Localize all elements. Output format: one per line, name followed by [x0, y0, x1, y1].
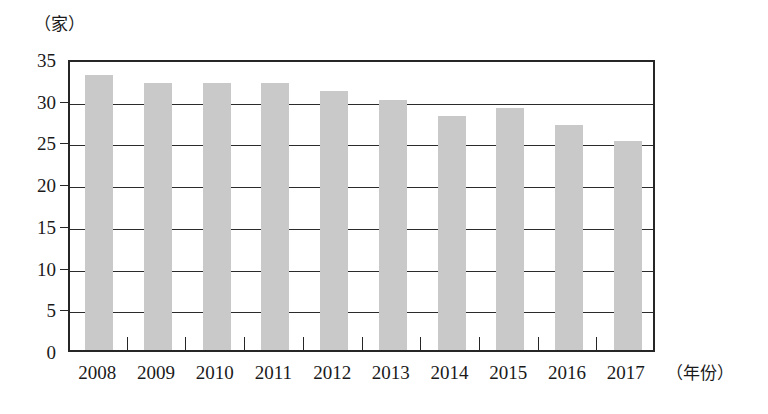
x-tick-label: 2010: [180, 362, 250, 384]
y-tick-label: 10: [10, 259, 56, 278]
bar: [144, 83, 172, 350]
y-axis-unit-label: （家）: [34, 14, 85, 36]
bar: [85, 75, 113, 350]
y-tick-label: 35: [10, 51, 56, 70]
bar-chart: （家） 05101520253035 200820092010201120122…: [0, 0, 768, 414]
bar: [438, 116, 466, 350]
bar: [614, 141, 642, 350]
bars-layer: [70, 62, 653, 350]
bar: [379, 100, 407, 350]
bar: [261, 83, 289, 350]
y-tick-label: 5: [10, 301, 56, 320]
x-tick-label: 2014: [415, 362, 485, 384]
y-tick-label: 20: [10, 176, 56, 195]
x-tick-label: 2012: [297, 362, 367, 384]
bar: [203, 83, 231, 350]
x-tick-label: 2016: [532, 362, 602, 384]
x-axis-unit-label: （年份）: [666, 363, 734, 385]
bar: [555, 125, 583, 350]
y-tick-label: 30: [10, 92, 56, 111]
y-tick-label: 15: [10, 217, 56, 236]
x-tick-label: 2011: [238, 362, 308, 384]
bar: [496, 108, 524, 350]
x-tick-label: 2008: [62, 362, 132, 384]
y-tick-label: 0: [10, 343, 56, 362]
x-tick-label: 2015: [473, 362, 543, 384]
x-tick-label: 2017: [591, 362, 661, 384]
bar: [320, 91, 348, 350]
x-tick-label: 2009: [121, 362, 191, 384]
plot-area: [68, 60, 655, 352]
x-tick-label: 2013: [356, 362, 426, 384]
y-tick-label: 25: [10, 134, 56, 153]
